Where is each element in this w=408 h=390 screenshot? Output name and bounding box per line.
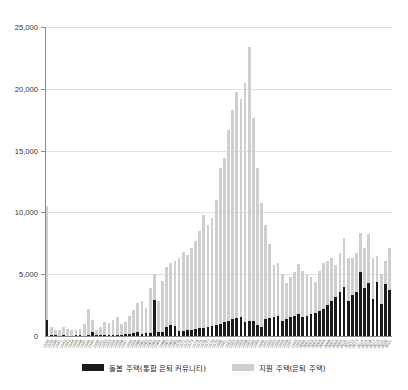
bar-stack [194,241,197,336]
bar-segment-care-housing [285,319,288,336]
bar-segment-care-housing [380,304,383,336]
x-tick-label: 2021 [385,339,393,349]
bar-segment-supportive-housing [50,327,53,334]
bar-segment-supportive-housing [277,263,280,316]
bar-segment-care-housing [310,314,313,336]
bar-segment-supportive-housing [46,206,49,320]
bar-stack [99,327,102,336]
bar-stack [207,225,210,336]
bar-segment-care-housing [334,297,337,336]
bar-stack [141,301,144,336]
bar-segment-care-housing [244,322,247,336]
bar-stack [260,203,263,336]
bar-segment-supportive-housing [62,327,65,336]
bar-stack [326,261,329,336]
x-axis-labels: 1938193919401941194219431944194519461947… [45,338,392,364]
bar-segment-supportive-housing [190,248,193,330]
bar-segment-care-housing [169,325,172,336]
bar-stack [223,158,226,336]
bar-segment-supportive-housing [314,282,317,313]
bar-stack [190,248,193,336]
bar-segment-supportive-housing [380,274,383,304]
bar-segment-care-housing [388,290,391,336]
bar-segment-care-housing [384,284,387,336]
bar-segment-supportive-housing [223,158,226,322]
bar-segment-supportive-housing [256,168,259,325]
bar-segment-supportive-housing [136,303,139,331]
bar-segment-supportive-housing [215,200,218,325]
bar-segment-supportive-housing [339,253,342,291]
bar-column[interactable] [387,27,391,336]
bar-segment-care-housing [264,319,267,336]
y-axis-line [45,27,46,337]
bar-stack [380,274,383,336]
bar-segment-supportive-housing [384,261,387,284]
y-tick-label: 20,000 [15,84,38,93]
bar-stack [112,320,115,336]
bar-segment-supportive-housing [174,261,177,327]
bar-segment-supportive-housing [289,277,292,318]
bar-segment-supportive-housing [240,99,243,318]
legend-item-label: 돌봄 주택(통합 은퇴 커뮤니티) [109,362,206,373]
y-tick-label: 15,000 [15,146,38,155]
legend-item-supportive-housing[interactable]: 지원 주택(은퇴 주택) [232,362,325,373]
bar-segment-care-housing [367,283,370,336]
bar-stack [91,320,94,336]
bar-segment-supportive-housing [112,320,115,335]
bar-segment-supportive-housing [128,316,131,335]
bar-stack [116,317,119,336]
bar-segment-supportive-housing [351,258,354,295]
bar-segment-care-housing [330,301,333,336]
bar-segment-care-housing [211,326,214,336]
bar-stack [79,329,82,336]
bar-segment-supportive-housing [355,253,358,291]
bar-segment-supportive-housing [157,301,160,332]
legend-swatch-icon [232,364,254,371]
bar-segment-supportive-housing [334,265,337,297]
bar-segment-supportive-housing [169,263,172,325]
bar-stack [248,47,251,336]
y-tick-label: 5,000 [19,270,38,279]
bar-segment-supportive-housing [330,258,333,301]
x-axis-line [45,336,392,337]
y-tick-label: 25,000 [15,23,38,32]
bar-stack [235,92,238,336]
bar-stack [198,231,201,336]
bar-segment-care-housing [174,326,177,336]
bar-segment-supportive-housing [248,47,251,321]
bar-stack [182,252,185,336]
bar-stack [372,258,375,336]
bar-stack [145,308,148,336]
bar-segment-supportive-housing [306,275,309,316]
bar-segment-supportive-housing [252,118,255,321]
bar-stack [132,310,135,336]
bar-stack [334,265,337,336]
bar-stack [277,263,280,336]
bar-stack [310,277,313,336]
bar-segment-supportive-housing [198,231,201,329]
chart-legend: 돌봄 주택(통합 은퇴 커뮤니티) 지원 주택(은퇴 주택) [0,362,408,373]
bar-segment-care-housing [289,317,292,336]
bar-segment-care-housing [153,300,156,336]
bar-segment-care-housing [293,316,296,336]
bar-segment-care-housing [240,317,243,336]
bar-stack [227,130,230,336]
bar-segment-supportive-housing [227,130,230,320]
legend-item-label: 지원 주택(은퇴 주택) [259,362,325,373]
bar-stack [157,301,160,336]
bar-stack [359,233,362,336]
bar-stack [153,274,156,336]
bar-segment-care-housing [301,317,304,336]
bar-stack [202,215,205,336]
bar-segment-care-housing [235,318,238,336]
bar-segment-care-housing [198,328,201,336]
bar-segment-supportive-housing [178,258,181,331]
bar-stack [108,323,111,336]
bar-stack [384,261,387,336]
bar-stack [318,271,321,336]
bar-segment-care-housing [376,282,379,336]
legend-item-care-housing[interactable]: 돌봄 주택(통합 은퇴 커뮤니티) [82,362,206,373]
bar-stack [83,324,86,336]
bar-stack [219,168,222,336]
bar-segment-supportive-housing [145,308,148,333]
